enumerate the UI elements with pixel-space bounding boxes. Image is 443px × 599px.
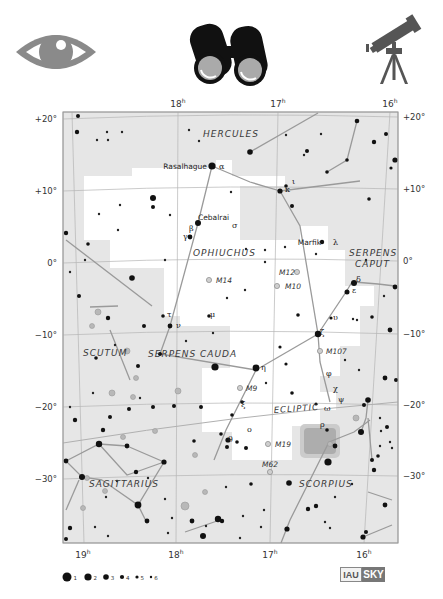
constellation-label: CAPUT xyxy=(355,259,390,269)
magnitude-dot xyxy=(103,574,109,580)
dec-label: −10° xyxy=(403,329,425,339)
dec-label: −20° xyxy=(403,400,425,410)
globular-cluster-icon xyxy=(206,277,211,282)
greek-letter: γ xyxy=(183,232,188,241)
sky-telescope-logo: SKY xyxy=(362,567,385,582)
ra-label: 16h xyxy=(356,548,371,560)
greek-letter: β xyxy=(189,224,194,233)
globular-cluster-icon xyxy=(267,469,272,474)
magnitude-label: 2 xyxy=(94,575,98,581)
dec-label: +20° xyxy=(403,112,425,122)
greek-letter: α xyxy=(219,162,225,171)
globular-cluster-icon xyxy=(294,269,299,274)
ra-label: 17h xyxy=(270,97,285,109)
ra-label: 19h xyxy=(75,548,90,560)
messier-label: M107 xyxy=(326,347,347,356)
greek-letter: υ xyxy=(333,313,338,322)
greek-letter: ω xyxy=(324,404,331,413)
messier-label: M14 xyxy=(216,276,232,285)
messier-label: M12 xyxy=(279,268,295,277)
constellation-label: SCORPIUS xyxy=(299,479,353,489)
constellation-label: SAGITTARIUS xyxy=(89,479,159,489)
magnitude-label: 1 xyxy=(74,575,78,581)
star-chart-map: 18h17h16h 19h18h17h16h +20°+10°0°−10°−20… xyxy=(0,0,443,599)
greek-letter: θ xyxy=(228,435,233,444)
globular-cluster-icon xyxy=(265,441,270,446)
iau-sky-logo: IAU SKY xyxy=(340,567,385,582)
star-name: Cebalrai xyxy=(198,213,229,222)
magnitude-label: 4 xyxy=(126,575,130,581)
ra-labels-bottom: 19h18h17h16h xyxy=(75,548,371,560)
star-name: Rasalhague xyxy=(163,162,207,171)
dec-label: 0° xyxy=(47,258,57,268)
magnitude-dot xyxy=(120,575,124,579)
dec-label: −30° xyxy=(403,471,425,481)
greek-letter: λ xyxy=(333,238,338,247)
constellation-label: HERCULES xyxy=(203,129,259,139)
magnitude-label: 5 xyxy=(141,575,145,581)
magnitude-label: 6 xyxy=(154,575,158,581)
globular-cluster-icon xyxy=(317,348,322,353)
dec-label: −10° xyxy=(35,330,57,340)
star-name: Marfik xyxy=(298,238,322,247)
greek-letter: χ xyxy=(333,384,338,393)
greek-letter: ρ xyxy=(320,420,325,429)
greek-letter: δ xyxy=(356,275,361,284)
greek-letter: ι xyxy=(292,177,295,186)
constellation-label: SCUTUM xyxy=(83,348,127,358)
dec-label: +10° xyxy=(35,186,57,196)
dec-label: +20° xyxy=(35,114,57,124)
ra-label: 17h xyxy=(262,548,277,560)
greek-letter: ν xyxy=(176,321,181,330)
greek-letter: ξ xyxy=(241,400,246,409)
globular-cluster-icon xyxy=(237,385,242,390)
greek-letter: σ xyxy=(232,221,238,230)
magnitude-dot xyxy=(135,575,138,578)
ra-label: 18h xyxy=(170,97,185,109)
greek-letter: ζ xyxy=(320,328,325,337)
greek-letter: φ xyxy=(326,369,332,378)
greek-letter: ο xyxy=(247,425,252,434)
dec-label: −30° xyxy=(35,474,57,484)
constellation-label: OPHIUCHUS xyxy=(193,248,256,258)
ra-label: 16h xyxy=(382,97,397,109)
dec-labels-right: +20°+10°0°−10°−20°−30° xyxy=(403,112,425,481)
messier-label: M19 xyxy=(275,440,291,449)
greek-letter: μ xyxy=(210,310,215,319)
magnitude-legend: 123456 xyxy=(63,573,159,582)
constellation-label: SERPENS CAUDA xyxy=(148,349,237,359)
magnitude-dot xyxy=(84,573,91,580)
greek-letter: ψ xyxy=(338,395,344,404)
ra-labels-top: 18h17h16h xyxy=(170,97,397,109)
iau-logo: IAU xyxy=(340,567,362,582)
greek-letter: τ xyxy=(167,310,172,319)
messier-label: M9 xyxy=(246,384,257,393)
messier-label: M10 xyxy=(285,282,301,291)
globular-cluster-icon xyxy=(274,283,279,288)
greek-letter: κ xyxy=(285,185,290,194)
magnitude-dot xyxy=(63,573,72,582)
ra-label: 18h xyxy=(168,548,183,560)
dec-label: −20° xyxy=(35,402,57,412)
dec-labels-left: +20°+10°0°−10°−20°−30° xyxy=(35,114,57,484)
magnitude-label: 3 xyxy=(111,575,115,581)
dec-label: 0° xyxy=(403,256,413,266)
magnitude-dot xyxy=(150,576,152,578)
greek-letter: ε xyxy=(352,286,356,295)
dec-label: +10° xyxy=(403,184,425,194)
greek-letter: η xyxy=(261,363,266,372)
constellation-label: SERPENS xyxy=(349,248,397,258)
messier-label: M62 xyxy=(262,460,278,469)
